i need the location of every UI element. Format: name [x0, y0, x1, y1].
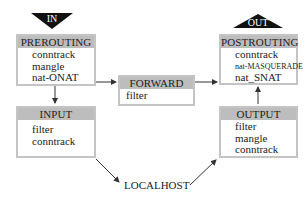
chain-title: POSTROUTING: [221, 36, 296, 48]
chain-output: OUTPUT filter mangle conntrack: [219, 106, 298, 158]
chain-prerouting: PREROUTING conntrack mangle nat-ONAT: [16, 34, 96, 86]
table-item: filter: [126, 90, 193, 102]
table-item: conntrack: [235, 144, 296, 156]
chain-input: INPUT filter conntrack: [16, 106, 96, 158]
table-item: nat-ONAT: [32, 72, 94, 84]
arrow-localhost-to-output: [190, 160, 216, 185]
chain-title: OUTPUT: [221, 108, 296, 120]
out-label: OUT: [233, 17, 283, 28]
arrow-input-to-localhost: [96, 159, 119, 182]
in-label: IN: [31, 13, 73, 24]
table-item: conntrack: [32, 136, 94, 148]
table-item: filter: [32, 124, 94, 136]
chain-title: FORWARD: [120, 77, 193, 89]
table-item: conntrack: [32, 49, 94, 61]
table-item: nat_SNAT: [235, 72, 296, 84]
table-item: conntrack: [235, 49, 296, 61]
localhost-label: LOCALHOST: [124, 179, 189, 191]
table-item: filter: [235, 121, 296, 133]
chain-title: PREROUTING: [18, 36, 94, 48]
chain-title: INPUT: [18, 108, 94, 120]
chain-postrouting: POSTROUTING conntrack nat-MASQUERADE nat…: [219, 34, 298, 85]
chain-forward: FORWARD filter: [118, 75, 195, 106]
